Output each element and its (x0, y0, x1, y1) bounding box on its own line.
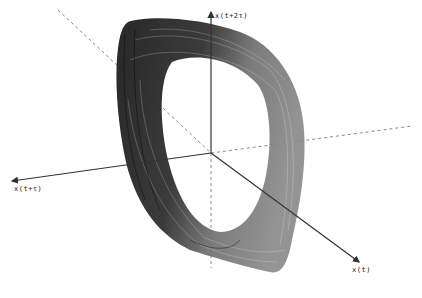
y-axis-label: x(t+τ) (14, 185, 42, 193)
x-axis-label: x(t) (352, 266, 371, 274)
z-axis-label: x(t+2τ) (215, 12, 248, 20)
attractor-plot (0, 0, 422, 298)
y-axis-line (12, 153, 211, 181)
